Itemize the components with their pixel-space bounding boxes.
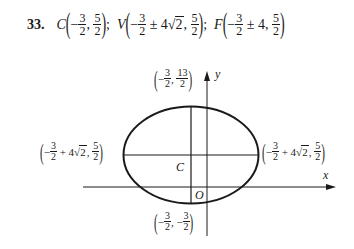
comma: , bbox=[171, 73, 174, 85]
plus-sign: + bbox=[60, 146, 66, 158]
origin-label: O bbox=[195, 188, 204, 203]
fraction: 32 bbox=[272, 141, 279, 162]
fraction: 32 bbox=[164, 211, 171, 232]
coefficient: 4 bbox=[69, 146, 75, 158]
fraction: 132 bbox=[176, 68, 188, 89]
paren-open: ( bbox=[154, 66, 158, 91]
x-axis-arrow-icon bbox=[326, 184, 336, 190]
paren-close: ) bbox=[188, 66, 192, 91]
denominator: 2 bbox=[314, 152, 321, 162]
fraction: 52 bbox=[314, 141, 321, 162]
paren-open: ( bbox=[262, 139, 266, 164]
denominator: 2 bbox=[164, 79, 171, 89]
radicand: 2 bbox=[79, 145, 87, 158]
coefficient: 4 bbox=[291, 146, 297, 158]
fraction: 32 bbox=[164, 68, 171, 89]
paren-close: ) bbox=[321, 139, 325, 164]
y-axis-arrow-icon bbox=[204, 71, 210, 81]
denominator: 2 bbox=[92, 152, 99, 162]
denominator: 2 bbox=[164, 222, 171, 232]
top-vertex-label: ( − 32 , 132 ) bbox=[154, 68, 192, 89]
right-vertex-label: ( − 32 + 4√2, 52 ) bbox=[262, 141, 325, 162]
comma: , bbox=[87, 146, 90, 158]
left-vertex-label: ( − 32 + 4√2, 52 ) bbox=[40, 141, 103, 162]
plus-sign: + bbox=[282, 146, 288, 158]
comma: , bbox=[309, 146, 312, 158]
paren-close: ) bbox=[99, 139, 103, 164]
comma: , bbox=[171, 216, 174, 228]
x-axis-label: x bbox=[323, 168, 328, 183]
paren-open: ( bbox=[154, 209, 158, 234]
center-point-label: C bbox=[176, 160, 184, 175]
radicand: 2 bbox=[301, 145, 309, 158]
denominator: 2 bbox=[179, 79, 186, 89]
denominator: 2 bbox=[272, 152, 279, 162]
fraction: 32 bbox=[183, 211, 190, 232]
denominator: 2 bbox=[50, 152, 57, 162]
paren-close: ) bbox=[190, 209, 194, 234]
paren-open: ( bbox=[40, 139, 44, 164]
fraction: 52 bbox=[92, 141, 99, 162]
fraction: 32 bbox=[50, 141, 57, 162]
y-axis-label: y bbox=[215, 67, 220, 82]
bottom-vertex-label: ( − 32 , − 32 ) bbox=[154, 211, 193, 232]
denominator: 2 bbox=[183, 222, 190, 232]
